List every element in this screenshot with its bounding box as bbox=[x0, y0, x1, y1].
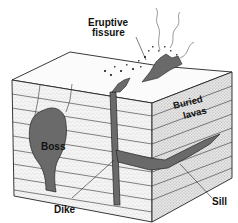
smoke-plumes bbox=[156, 8, 194, 58]
label-dike: Dike bbox=[54, 204, 76, 215]
igneous-intrusion-diagram: Eruptive fissure Buried lavas Boss Dike … bbox=[0, 0, 238, 223]
label-eruptive-fissure-line2: fissure bbox=[92, 27, 125, 38]
label-boss: Boss bbox=[41, 141, 66, 152]
label-sill: Sill bbox=[212, 196, 227, 207]
